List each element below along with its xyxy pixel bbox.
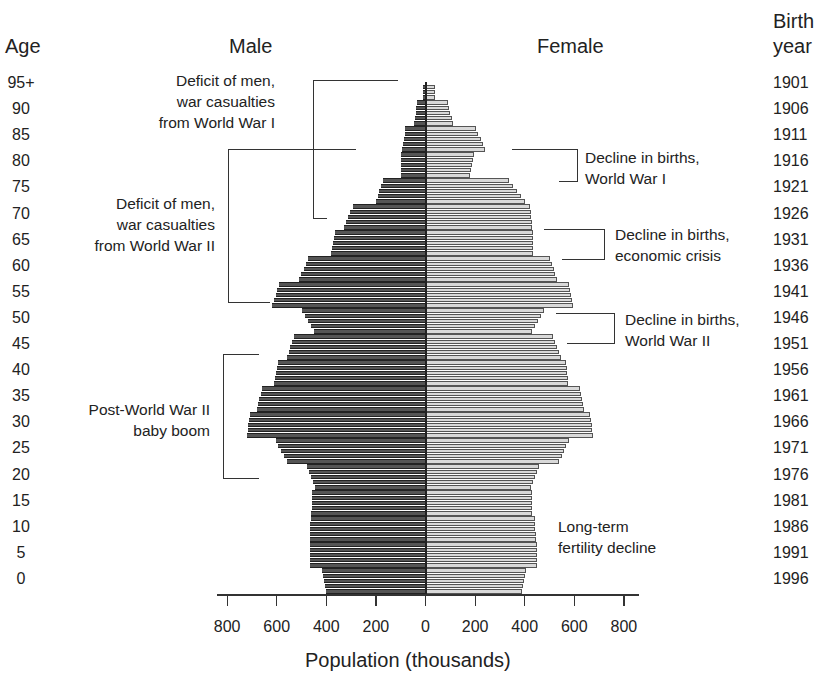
male-bar — [250, 412, 426, 416]
female-bar — [426, 444, 567, 448]
female-bar — [426, 428, 593, 432]
age-tick-label: 60 — [0, 257, 42, 275]
age-tick-label: 40 — [0, 361, 42, 379]
female-bar — [426, 158, 474, 162]
x-tick-mark — [276, 594, 277, 606]
female-bar — [426, 267, 554, 271]
age-tick-label: 35 — [0, 387, 42, 405]
age-tick-label: 20 — [0, 466, 42, 484]
male-bar — [311, 324, 426, 328]
female-bar — [426, 204, 531, 208]
female-bar — [426, 464, 539, 468]
bracket-ww1-births-bottom — [559, 181, 578, 182]
x-tick-mark — [425, 594, 426, 606]
annotation-ww2-men: Deficit of men, war casualties from Worl… — [55, 193, 215, 256]
male-bar — [306, 262, 426, 266]
female-bar — [426, 282, 569, 286]
female-bar — [426, 360, 567, 364]
female-bar — [426, 116, 452, 120]
female-bar — [426, 241, 534, 245]
male-bar — [294, 334, 425, 338]
birth-year-title-line1: Birth — [773, 10, 814, 33]
x-tick-mark — [475, 594, 476, 606]
birth-year-tick-label: 1966 — [773, 413, 809, 431]
female-bar — [426, 501, 532, 505]
age-tick-label: 25 — [0, 439, 42, 457]
female-bar — [426, 90, 436, 94]
male-bar — [301, 272, 425, 276]
female-bar — [426, 522, 536, 526]
female-bar — [426, 548, 537, 552]
female-bar — [426, 199, 525, 203]
male-bar — [401, 163, 426, 167]
birth-year-tick-label: 1961 — [773, 387, 809, 405]
birth-year-tick-label: 1996 — [773, 570, 809, 588]
birth-year-tick-label: 1986 — [773, 518, 809, 536]
x-tick-label: 800 — [604, 618, 644, 636]
male-bar — [401, 173, 426, 177]
male-bar — [276, 293, 426, 297]
female-bar — [426, 386, 580, 390]
male-bar — [275, 376, 425, 380]
male-bar — [287, 459, 426, 463]
female-bar — [426, 366, 567, 370]
female-bar — [426, 314, 541, 318]
x-tick-mark — [375, 594, 376, 606]
female-bar — [426, 470, 537, 474]
male-bar — [292, 340, 425, 344]
x-tick-label: 400 — [306, 618, 346, 636]
female-bar — [426, 215, 532, 219]
female-bar — [426, 121, 453, 125]
male-bar — [383, 178, 426, 182]
annotation-ww1-men: Deficit of men, war casualties from Worl… — [140, 70, 275, 133]
female-bar — [426, 537, 536, 541]
female-bar — [426, 454, 562, 458]
male-bar — [310, 553, 425, 557]
male-bar — [350, 210, 425, 214]
female-bar — [426, 438, 569, 442]
female-bar — [426, 225, 533, 229]
male-bar — [261, 392, 426, 396]
bracket-ww1-men-top — [313, 80, 398, 81]
female-bar — [426, 298, 572, 302]
x-tick-label: 200 — [455, 618, 495, 636]
male-bar — [276, 438, 426, 442]
male-bar — [332, 246, 425, 250]
age-tick-label: 50 — [0, 309, 42, 327]
male-bar — [248, 423, 425, 427]
bracket-ww1-births-top — [512, 149, 578, 150]
age-tick-label: 90 — [0, 100, 42, 118]
female-bar — [426, 392, 581, 396]
female-bar — [426, 355, 561, 359]
male-bar — [274, 298, 426, 302]
bracket-boom-vertical — [223, 354, 224, 478]
female-bar — [426, 111, 451, 115]
male-bar — [272, 303, 426, 307]
female-bar — [426, 251, 534, 255]
male-bar — [348, 215, 425, 219]
male-bar — [353, 204, 426, 208]
male-bar — [277, 366, 426, 370]
male-bar — [279, 282, 425, 286]
x-tick-mark — [227, 594, 228, 606]
bracket-boom-bottom — [223, 478, 259, 479]
female-bar — [426, 100, 448, 104]
female-bar — [426, 516, 535, 520]
male-bar — [402, 147, 426, 151]
x-tick-label: 600 — [257, 618, 297, 636]
female-bar — [426, 579, 525, 583]
bracket-crisis-vertical — [604, 229, 605, 260]
x-tick-label: 400 — [505, 618, 545, 636]
female-bar — [426, 381, 569, 385]
male-bar — [322, 568, 426, 572]
female-bar — [426, 303, 574, 307]
male-bar — [278, 360, 426, 364]
birth-year-tick-label: 1931 — [773, 231, 809, 249]
female-bar — [426, 542, 537, 546]
female-bar — [426, 345, 557, 349]
bracket-ww2-men-vertical — [228, 149, 229, 303]
male-bar — [258, 402, 425, 406]
female-bar — [426, 256, 551, 260]
birth-year-title-line2: year — [773, 35, 812, 58]
male-bar — [248, 428, 426, 432]
